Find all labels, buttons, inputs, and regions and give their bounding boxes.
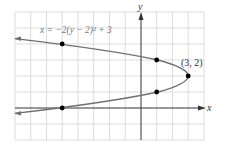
- vertex-point: [186, 74, 191, 79]
- x-axis-arrow-icon: [198, 106, 206, 111]
- point-1-3: [154, 58, 159, 63]
- vertex-label: (3, 2): [181, 57, 203, 69]
- x-axis-label: x: [206, 102, 212, 113]
- parabola-graph: x = −2(y − 2)² + 3 (3, 2) x y: [0, 0, 225, 156]
- point-neg5-0: [60, 106, 65, 111]
- y-axis-label: y: [137, 1, 143, 12]
- point-1-1: [154, 90, 159, 95]
- equation-label: x = −2(y − 2)² + 3: [39, 25, 112, 36]
- point-neg5-4: [60, 42, 65, 47]
- y-axis-arrow-icon: [139, 12, 144, 20]
